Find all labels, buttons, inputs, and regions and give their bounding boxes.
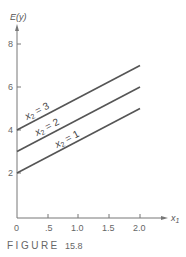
y-axis-title: E(y) [10,12,27,22]
x-axis-arrow-icon [161,216,168,220]
y-tick-label: 2 [8,168,13,178]
x-tick-label: 1.0 [71,223,84,233]
y-axis-arrow-icon [15,24,19,31]
series-lines [17,66,140,174]
x-ticks: 0 .5 1.0 1.5 2.0 [14,214,146,233]
line-x2-3 [17,66,140,131]
y-tick-label: 8 [8,39,13,49]
caption-word: FIGURE [7,240,60,251]
figure-caption: FIGURE 15.8 [7,240,83,251]
x-tick-label: 2.0 [133,223,146,233]
y-tick-label: 4 [8,125,13,135]
x-tick-label: .5 [45,223,53,233]
line-x2-2 [17,87,140,152]
chart-canvas: 2 4 6 8 0 .5 1.0 1.5 2.0 E(y) x1 x2 = 3 … [0,0,186,257]
y-ticks: 2 4 6 8 [8,39,21,178]
x-tick-label: 1.5 [102,223,115,233]
x-tick-label: 0 [14,223,19,233]
caption-number: 15.8 [65,241,83,251]
y-tick-label: 6 [8,82,13,92]
x-axis-title: x1 [170,213,180,224]
